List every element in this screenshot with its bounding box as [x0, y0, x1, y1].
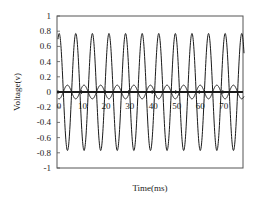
y-tick-label: 0.2	[40, 72, 51, 82]
y-tick-label: -0.6	[37, 133, 52, 143]
x-tick-label: 20	[102, 101, 112, 111]
y-tick-label: 0	[47, 87, 52, 97]
x-axis-ticks: 010203040506070	[57, 90, 229, 111]
y-tick-label: 0.6	[40, 41, 52, 51]
y-tick-label: 1	[47, 11, 52, 21]
y-tick-label: 0.8	[40, 26, 52, 36]
y-tick-label: -0.8	[37, 148, 52, 158]
voltage-time-chart: 10.80.60.40.20-0.2-0.4-0.6-0.8-1 0102030…	[0, 0, 256, 201]
series-lines	[57, 33, 244, 150]
y-tick-label: -0.2	[37, 102, 51, 112]
x-tick-label: 10	[78, 101, 88, 111]
y-tick-label: -0.4	[37, 117, 52, 127]
y-tick-label: 0.4	[40, 57, 52, 67]
x-axis-label: Time(ms)	[132, 183, 167, 193]
x-tick-label: 0	[57, 101, 62, 111]
y-tick-label: -1	[44, 163, 52, 173]
y-axis-label: Voltage(v)	[12, 73, 22, 111]
